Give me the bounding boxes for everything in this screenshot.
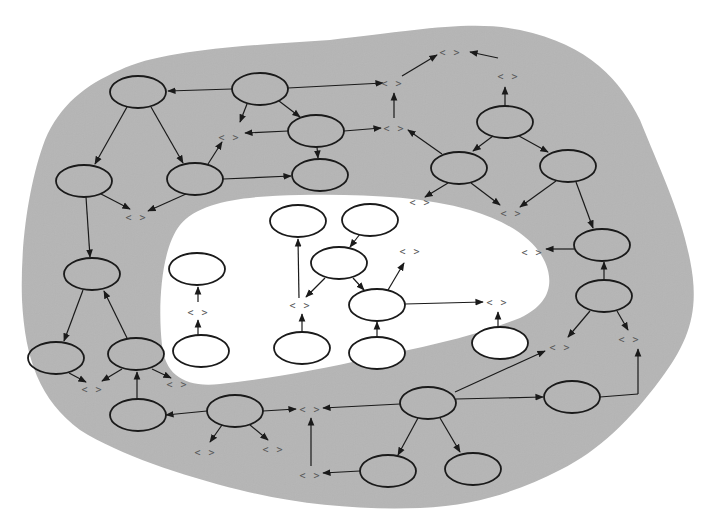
terminal-marker: < > <box>399 246 420 257</box>
outer-node-n18 <box>544 381 600 413</box>
inner-node-i3 <box>342 204 398 236</box>
outer-node-n5 <box>56 165 112 197</box>
terminal-marker: < > <box>125 212 146 223</box>
outer-node-n11 <box>576 280 632 312</box>
outer-node-n10 <box>574 229 630 261</box>
terminal-marker: < > <box>409 197 430 208</box>
outer-node-n4 <box>292 159 348 191</box>
inner-node-i6 <box>173 335 229 367</box>
inner-node-i1 <box>169 253 225 285</box>
terminal-marker: < > <box>497 71 518 82</box>
terminal-marker: < > <box>262 444 283 455</box>
outer-node-n20 <box>445 453 501 485</box>
terminal-marker: < > <box>383 123 404 134</box>
outer-node-n19 <box>360 455 416 487</box>
terminal-marker: < > <box>549 342 570 353</box>
outer-node-n13 <box>28 342 84 374</box>
outer-node-n3 <box>288 115 344 147</box>
outer-node-n6 <box>167 163 223 195</box>
outer-node-n2 <box>232 73 288 105</box>
terminal-marker: < > <box>299 404 320 415</box>
terminal-marker: < > <box>289 300 310 311</box>
outer-node-n8 <box>431 152 487 184</box>
inner-node-i5 <box>349 289 405 321</box>
inner-node-i7 <box>274 332 330 364</box>
terminal-marker: < > <box>194 447 215 458</box>
terminal-marker: < > <box>81 384 102 395</box>
inner-node-i2 <box>270 205 326 237</box>
terminal-marker: < > <box>500 208 521 219</box>
network-diagram: < >< >< >< >< >< >< >< >< >< >< >< >< ><… <box>0 0 704 514</box>
terminal-marker: < > <box>166 379 187 390</box>
terminal-marker: < > <box>486 297 507 308</box>
terminal-marker: < > <box>439 47 460 58</box>
terminal-marker: < > <box>218 132 239 143</box>
outer-node-n14 <box>108 338 164 370</box>
terminal-marker: < > <box>187 307 208 318</box>
outer-node-n9 <box>540 150 596 182</box>
outer-node-n7 <box>477 106 533 138</box>
outer-node-n1 <box>110 76 166 108</box>
inner-node-i4 <box>311 247 367 279</box>
terminal-marker: < > <box>618 334 639 345</box>
terminal-marker: < > <box>521 247 542 258</box>
outer-node-n12 <box>64 258 120 290</box>
inner-node-i8 <box>349 337 405 369</box>
outer-node-n16 <box>207 395 263 427</box>
terminal-marker: < > <box>381 78 402 89</box>
diagram-canvas: < >< >< >< >< >< >< >< >< >< >< >< >< ><… <box>0 0 704 514</box>
terminal-marker: < > <box>299 470 320 481</box>
outer-node-n15 <box>110 399 166 431</box>
inner-node-i9 <box>472 327 528 359</box>
outer-node-n17 <box>400 387 456 419</box>
